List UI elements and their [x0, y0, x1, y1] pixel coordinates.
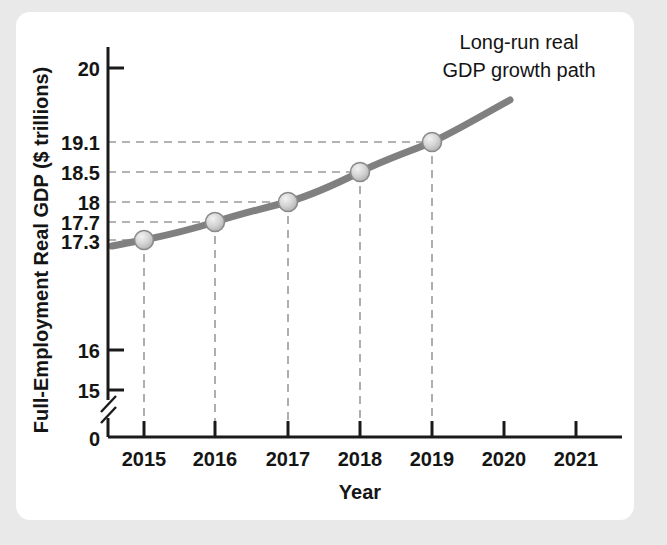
vertical-drop-lines: [144, 142, 432, 437]
x-tick-label-2018: 2018: [338, 448, 383, 470]
y-tick-label-0: 0: [89, 428, 100, 450]
x-tick-label-2021: 2021: [554, 448, 599, 470]
gdp-growth-line-chart: 20 19.1 18.5 18 17.7 17.3 16 15 0 2015 2…: [0, 0, 667, 545]
x-tick-label-2020: 2020: [482, 448, 527, 470]
data-point-2017[interactable]: [279, 193, 298, 212]
y-tick-label-17-3: 17.3: [61, 231, 100, 253]
x-axis-tick-labels: 2015 2016 2017 2018 2019 2020 2021: [122, 448, 599, 470]
growth-path-curve: [112, 100, 510, 246]
y-tick-label-15: 15: [78, 380, 100, 402]
annotation-line-1: Long-run real: [460, 31, 579, 53]
page-root: 20 19.1 18.5 18 17.7 17.3 16 15 0 2015 2…: [0, 0, 667, 545]
y-tick-label-16: 16: [78, 340, 100, 362]
data-point-2015[interactable]: [135, 231, 154, 250]
x-axis-ticks: [144, 421, 576, 437]
x-tick-label-2017: 2017: [266, 448, 311, 470]
data-point-2019[interactable]: [423, 133, 442, 152]
horizontal-guide-lines: [108, 142, 432, 240]
y-axis-title: Full-Employment Real GDP ($ trillions): [30, 67, 52, 433]
data-point-2018[interactable]: [351, 163, 370, 182]
y-tick-label-18-5: 18.5: [61, 162, 100, 184]
y-axis-ticks: [108, 68, 124, 390]
x-tick-label-2015: 2015: [122, 448, 167, 470]
x-tick-label-2016: 2016: [193, 448, 238, 470]
y-tick-label-18: 18: [78, 192, 100, 214]
x-tick-label-2019: 2019: [410, 448, 455, 470]
y-axis-tick-labels: 20 19.1 18.5 18 17.7 17.3 16 15 0: [61, 58, 100, 450]
y-tick-label-20: 20: [78, 58, 100, 80]
curve-annotation: Long-run real GDP growth path: [442, 31, 595, 81]
data-point-2016[interactable]: [206, 213, 225, 232]
y-tick-label-19-1: 19.1: [61, 132, 100, 154]
x-axis-title: Year: [339, 481, 381, 503]
chart-plot-area: 20 19.1 18.5 18 17.7 17.3 16 15 0 2015 2…: [0, 0, 667, 545]
annotation-line-2: GDP growth path: [442, 59, 595, 81]
